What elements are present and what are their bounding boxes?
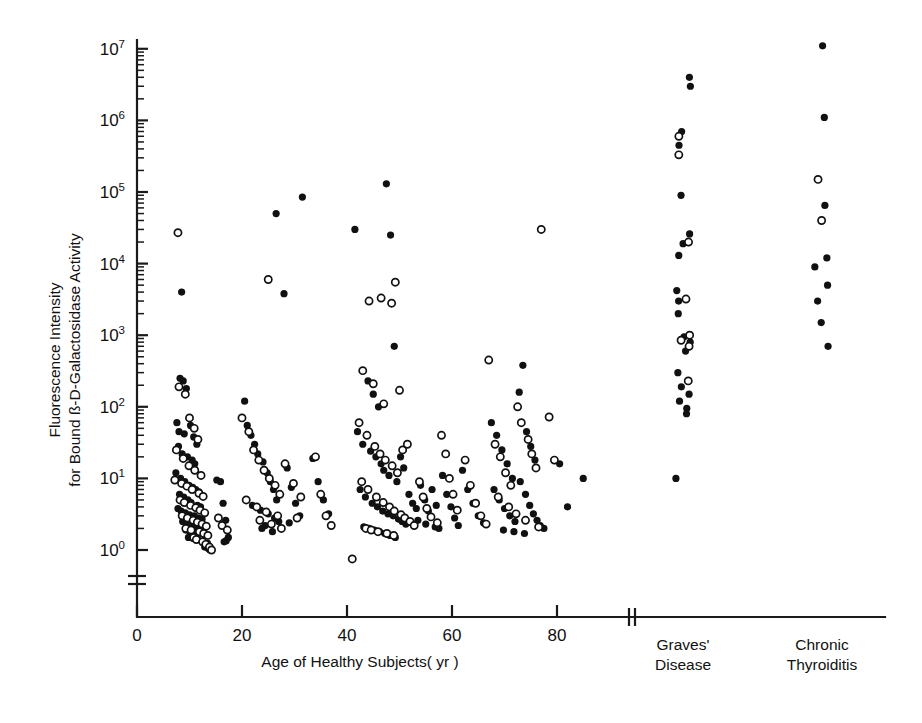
data-point-closed: [675, 142, 682, 149]
data-point-closed: [526, 502, 533, 509]
data-point-open: [243, 496, 250, 503]
data-point-closed: [354, 428, 361, 435]
data-point-open: [203, 523, 210, 530]
y-axis-label: Fluorescence Intensity for Bound ß-D-Gal…: [46, 233, 83, 487]
data-point-closed: [510, 528, 517, 535]
data-point-closed: [422, 521, 429, 528]
data-point-closed: [821, 202, 828, 209]
data-point-open: [359, 367, 366, 374]
data-point-open: [260, 467, 267, 474]
data-point-open: [355, 419, 362, 426]
data-point-open: [411, 522, 418, 529]
data-point-open: [514, 403, 521, 410]
data-point-open: [497, 453, 504, 460]
data-point-closed: [677, 192, 684, 199]
data-point-closed: [273, 210, 280, 217]
data-point-open: [189, 486, 196, 493]
data-point-open: [322, 512, 329, 519]
data-point-open: [371, 443, 378, 450]
data-point-open: [256, 517, 263, 524]
data-point-open: [404, 441, 411, 448]
y-tick-label: 105: [100, 181, 125, 202]
data-point-open: [374, 528, 381, 535]
data-point-open: [502, 469, 509, 476]
data-point-closed: [493, 432, 500, 439]
data-point-closed: [821, 114, 828, 121]
data-point-open: [186, 414, 193, 421]
group-label-chronic-line2: Thyroiditis: [787, 656, 858, 673]
data-point-open: [191, 425, 198, 432]
data-point-open: [551, 457, 558, 464]
data-point-open: [349, 555, 356, 562]
y-tick-label: 104: [100, 253, 126, 274]
data-point-closed: [241, 398, 248, 405]
data-point-open: [187, 526, 194, 533]
data-point-open: [194, 436, 201, 443]
data-point-closed: [811, 263, 818, 270]
data-point-closed: [217, 478, 224, 485]
data-point-closed: [498, 446, 505, 453]
data-point-closed: [509, 475, 516, 482]
y-tick-label: 101: [100, 467, 125, 488]
x-axis-label: Age of Healthy Subjects( yr ): [261, 653, 458, 670]
data-point-closed: [686, 230, 693, 237]
data-point-open: [446, 475, 453, 482]
x-axis-ticks: [137, 605, 557, 617]
group-label-chronic: Chronic Thyroiditis: [787, 636, 858, 673]
data-point-open: [388, 300, 395, 307]
data-point-closed: [523, 428, 530, 435]
data-point-open: [265, 276, 272, 283]
data-point-closed: [286, 519, 293, 526]
data-point-open: [394, 469, 401, 476]
data-point-open: [378, 294, 385, 301]
y-axis-tick-labels: 100101102103104105106107: [100, 38, 126, 560]
scatter-plot-figure: Fluorescence Intensity for Bound ß-D-Gal…: [0, 0, 922, 723]
data-point-open: [427, 513, 434, 520]
data-point-closed: [580, 475, 587, 482]
y-tick-label: 100: [100, 539, 125, 560]
data-point-closed: [673, 287, 680, 294]
data-point-closed: [490, 486, 497, 493]
data-point-open: [391, 507, 398, 514]
data-point-open: [538, 226, 545, 233]
data-point-open: [495, 493, 502, 500]
data-point-open: [204, 532, 211, 539]
x-tick-label: 20: [233, 626, 252, 645]
data-point-open: [290, 480, 297, 487]
data-point-closed: [530, 510, 537, 517]
data-point-open: [173, 446, 180, 453]
data-point-open: [174, 229, 181, 236]
data-point-open: [507, 482, 514, 489]
x-axis-tick-labels: 020406080: [132, 626, 566, 645]
data-point-open: [462, 457, 469, 464]
data-point-open: [365, 297, 372, 304]
data-point-closed: [351, 226, 358, 233]
data-point-closed: [181, 430, 188, 437]
data-point-open: [263, 508, 270, 515]
data-point-open: [525, 436, 532, 443]
data-point-closed: [385, 472, 392, 479]
data-point-open: [274, 512, 281, 519]
data-point-open: [201, 509, 208, 516]
data-point-closed: [220, 500, 227, 507]
data-point-closed: [455, 522, 462, 529]
data-point-closed: [814, 297, 821, 304]
data-point-closed: [685, 391, 692, 398]
data-point-open: [532, 464, 539, 471]
data-point-open: [467, 482, 474, 489]
data-point-closed: [519, 362, 526, 369]
data-point-closed: [824, 343, 831, 350]
data-point-open: [373, 493, 380, 500]
data-point-closed: [315, 478, 322, 485]
data-point-open: [208, 546, 215, 553]
data-point-open: [682, 295, 689, 302]
data-point-closed: [221, 538, 228, 545]
data-point-closed: [683, 410, 690, 417]
data-point-closed: [393, 478, 400, 485]
data-point-open: [180, 455, 187, 462]
data-point-open: [370, 380, 377, 387]
data-point-open: [215, 514, 222, 521]
data-point-open: [677, 337, 684, 344]
data-point-open: [818, 217, 825, 224]
data-point-closed: [413, 505, 420, 512]
